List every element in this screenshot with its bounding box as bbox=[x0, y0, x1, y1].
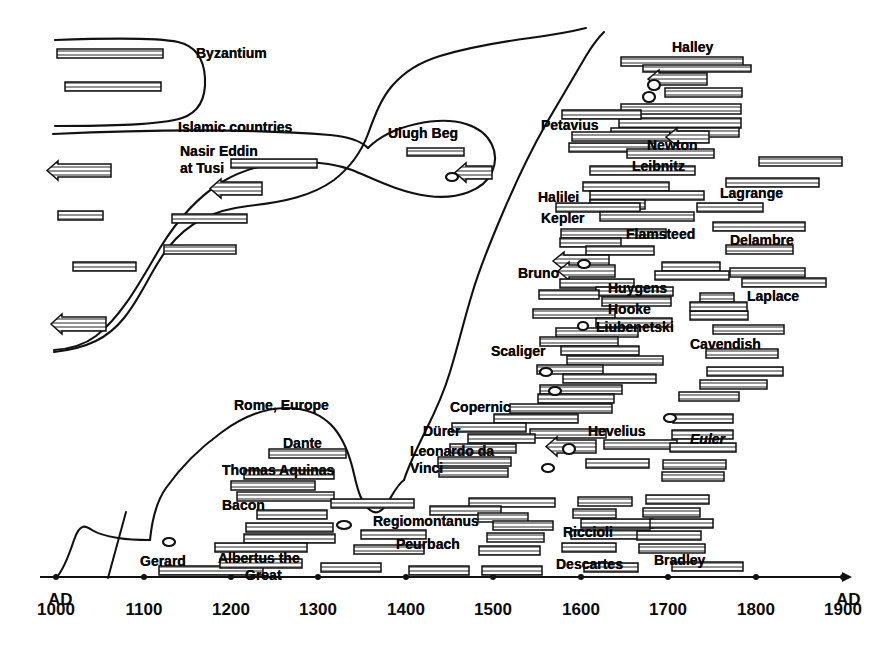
interval-bar-rect bbox=[562, 543, 616, 552]
interval-bar-rect bbox=[331, 499, 414, 508]
interval-bar bbox=[540, 337, 618, 346]
interval-bar bbox=[562, 543, 616, 552]
label-dante: Dante bbox=[283, 436, 322, 451]
interval-bar-rect bbox=[690, 302, 747, 311]
interval-bar bbox=[58, 211, 103, 220]
interval-bar-rect bbox=[439, 468, 508, 477]
interval-bar bbox=[231, 481, 315, 490]
interval-bar-rect bbox=[578, 497, 632, 506]
label-great: Great bbox=[245, 568, 282, 583]
label-vinci: Vinci bbox=[410, 461, 443, 476]
interval-bar bbox=[244, 534, 335, 543]
label-riccioli: Riccioli bbox=[563, 525, 613, 540]
axis-tick-1300 bbox=[315, 574, 321, 580]
interval-bar bbox=[759, 157, 842, 166]
label-leonardo-da: Leonardo da bbox=[410, 444, 494, 459]
axis-tick-label-1400: 1400 bbox=[376, 600, 436, 619]
interval-bar-rect bbox=[468, 434, 535, 443]
interval-bar bbox=[665, 88, 742, 97]
interval-bar bbox=[533, 309, 615, 318]
interval-bar bbox=[697, 203, 763, 212]
axis-unit-right: AD bbox=[836, 590, 861, 609]
label-cavendish: Cavendish bbox=[690, 337, 761, 352]
interval-bar-rect bbox=[590, 191, 704, 200]
interval-bar-rect bbox=[713, 325, 784, 334]
interval-bar bbox=[73, 262, 136, 271]
interval-bar-rect bbox=[452, 423, 526, 432]
label-bradley: Bradley bbox=[654, 553, 705, 568]
interval-bar bbox=[567, 356, 663, 365]
axis-tick-label-1100: 1100 bbox=[114, 600, 174, 619]
label-copernic: Copernic bbox=[450, 400, 511, 415]
interval-bar-rect bbox=[665, 88, 742, 97]
label-rome-europe: Rome, Europe bbox=[234, 398, 329, 413]
interval-bar-rect bbox=[583, 182, 669, 191]
label-at-tusi: at Tusi bbox=[180, 161, 224, 176]
interval-bar-rect bbox=[637, 531, 701, 540]
short-interval-marker bbox=[549, 387, 561, 395]
short-interval-marker bbox=[563, 444, 575, 454]
axis-tick-1100 bbox=[141, 574, 147, 580]
interval-bar bbox=[493, 521, 553, 530]
interval-bar bbox=[172, 214, 247, 223]
label-halley: Halley bbox=[672, 40, 713, 55]
axis-tick-1400 bbox=[403, 574, 409, 580]
interval-bar bbox=[257, 510, 327, 519]
interval-bar-rect bbox=[65, 82, 161, 91]
interval-bar bbox=[321, 563, 381, 572]
interval-bar-rect bbox=[172, 214, 247, 223]
axis-tick-1900 bbox=[840, 574, 846, 580]
label-leibnitz: Leibnitz bbox=[632, 159, 685, 174]
interval-bar-rect bbox=[604, 440, 677, 449]
axis-tick-1800 bbox=[753, 574, 759, 580]
label-peurbach: Peurbach bbox=[396, 537, 460, 552]
short-interval-marker bbox=[337, 521, 351, 529]
interval-bar-rect bbox=[700, 380, 767, 389]
label-albertus-the: Albertus the bbox=[218, 551, 300, 566]
interval-bar-rect bbox=[407, 148, 464, 156]
interval-bar-rect bbox=[662, 262, 720, 271]
interval-bar-rect bbox=[742, 278, 826, 287]
interval-bar bbox=[586, 459, 649, 468]
label-flamsteed: Flamsteed bbox=[626, 227, 695, 242]
axis-tick-1000 bbox=[53, 574, 59, 580]
label-petavius: Petavius bbox=[541, 118, 599, 133]
label-ulugh-beg: Ulugh Beg bbox=[388, 126, 458, 141]
label-liubenetski: Liubenetski bbox=[596, 320, 674, 335]
label-lagrange: Lagrange bbox=[720, 186, 783, 201]
interval-bar bbox=[210, 179, 262, 198]
short-interval-marker bbox=[542, 464, 554, 472]
interval-bar bbox=[51, 314, 106, 334]
interval-bar bbox=[707, 367, 783, 376]
interval-bar bbox=[650, 519, 713, 528]
timeline-chart: ByzantiumIslamic countriesNasir Eddinat … bbox=[0, 0, 891, 665]
interval-bar bbox=[600, 212, 694, 221]
interval-bar bbox=[604, 440, 677, 449]
interval-bar-arrow bbox=[51, 314, 106, 334]
chart-canvas bbox=[0, 0, 891, 665]
interval-bar bbox=[47, 161, 111, 180]
axis-tick-label-1500: 1500 bbox=[463, 600, 523, 619]
interval-bar bbox=[538, 394, 614, 403]
label-gerard: Gerard bbox=[140, 554, 186, 569]
interval-bar-rect bbox=[540, 337, 618, 346]
gerard-tick-stroke bbox=[108, 512, 126, 578]
label-hooke: Hooke bbox=[608, 302, 651, 317]
axis-tick-label-1600: 1600 bbox=[551, 600, 611, 619]
short-interval-marker bbox=[648, 80, 660, 90]
interval-bar bbox=[673, 414, 733, 423]
interval-bar bbox=[563, 374, 656, 383]
interval-bar bbox=[679, 392, 739, 401]
interval-bar-rect bbox=[164, 245, 236, 254]
label-laplace: Laplace bbox=[747, 289, 799, 304]
interval-bar-rect bbox=[493, 521, 553, 530]
interval-bar bbox=[455, 163, 492, 182]
label-scaliger: Scaliger bbox=[491, 344, 545, 359]
interval-bar bbox=[663, 460, 726, 469]
interval-bar-rect bbox=[650, 519, 713, 528]
interval-bar bbox=[561, 346, 639, 355]
short-interval-marker bbox=[163, 538, 175, 546]
label-descartes: Descartes bbox=[556, 557, 623, 572]
label-nasir-eddin: Nasir Eddin bbox=[180, 144, 258, 159]
interval-bar bbox=[583, 182, 669, 191]
